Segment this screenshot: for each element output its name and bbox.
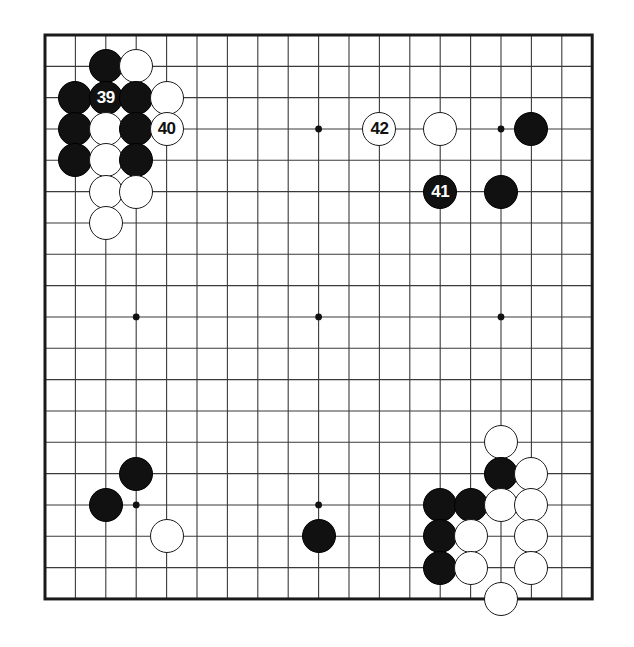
stone-black-move-41[interactable]: 41 xyxy=(423,175,457,209)
stone-white[interactable] xyxy=(514,551,548,585)
stone-black[interactable] xyxy=(119,81,153,115)
stone-black[interactable] xyxy=(454,488,488,522)
star-point xyxy=(133,314,140,321)
stone-move-number: 40 xyxy=(158,120,176,137)
stone-white[interactable] xyxy=(454,519,488,553)
stone-white[interactable] xyxy=(150,81,184,115)
stone-white[interactable] xyxy=(150,519,184,553)
star-point xyxy=(498,314,505,321)
star-point xyxy=(315,502,322,509)
stone-black[interactable] xyxy=(89,49,123,83)
stone-white[interactable] xyxy=(484,582,518,616)
stone-white-move-40[interactable]: 40 xyxy=(150,112,184,146)
stone-white[interactable] xyxy=(423,112,457,146)
stone-black[interactable] xyxy=(423,488,457,522)
stone-white[interactable] xyxy=(89,175,123,209)
stone-black[interactable] xyxy=(423,551,457,585)
go-board-diagram: 39404241 xyxy=(0,0,634,647)
stone-white[interactable] xyxy=(454,551,488,585)
stone-black[interactable] xyxy=(119,457,153,491)
stone-white[interactable] xyxy=(484,488,518,522)
star-point xyxy=(133,502,140,509)
stone-white[interactable] xyxy=(119,175,153,209)
star-point xyxy=(315,314,322,321)
star-point xyxy=(315,126,322,133)
stone-move-number: 39 xyxy=(97,89,115,106)
stone-black[interactable] xyxy=(119,112,153,146)
stone-black[interactable] xyxy=(58,81,92,115)
stone-black[interactable] xyxy=(484,457,518,491)
stone-black[interactable] xyxy=(89,488,123,522)
stone-white[interactable] xyxy=(89,112,123,146)
star-point xyxy=(498,126,505,133)
stone-black[interactable] xyxy=(302,519,336,553)
stone-white[interactable] xyxy=(514,457,548,491)
stone-black[interactable] xyxy=(484,175,518,209)
stone-move-number: 42 xyxy=(370,120,388,137)
stone-black-move-39[interactable]: 39 xyxy=(89,81,123,115)
stone-white[interactable] xyxy=(89,143,123,177)
stone-white[interactable] xyxy=(89,206,123,240)
stone-move-number: 41 xyxy=(431,183,449,200)
